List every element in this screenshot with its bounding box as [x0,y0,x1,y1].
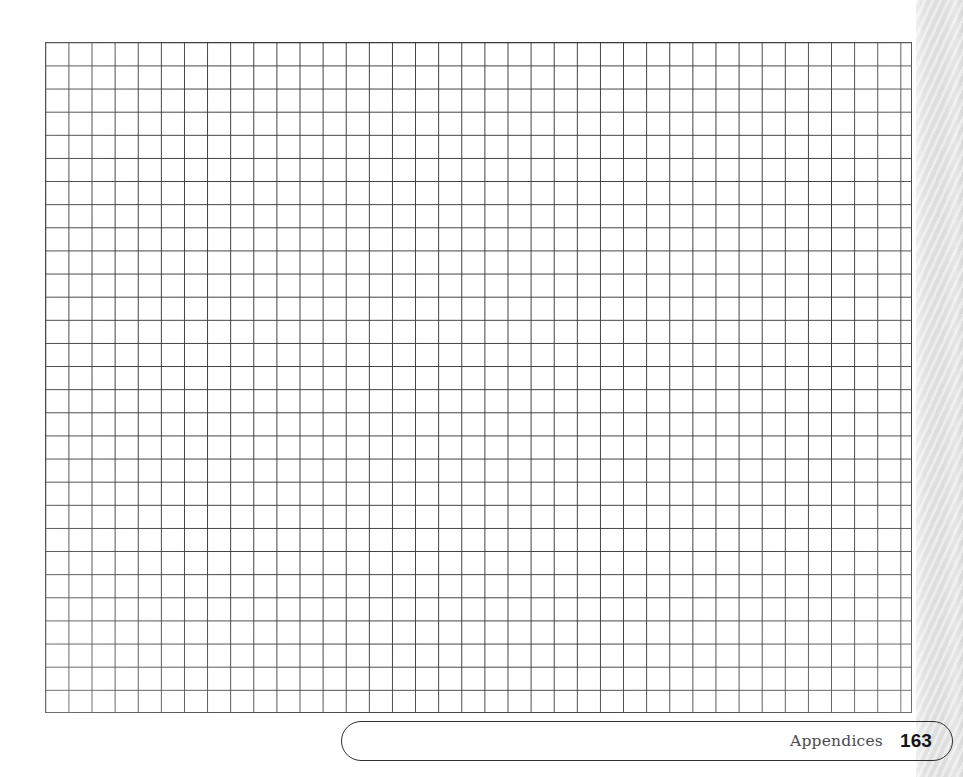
footer-section-label: Appendices [790,732,883,750]
page-edge-strip [916,0,963,777]
blank-graph-paper-grid[interactable] [45,42,912,713]
appendix-graph-paper-page: Appendices 163 [0,0,963,777]
footer-page-number: 163 [900,730,932,752]
footer-capsule: Appendices 163 [341,721,953,761]
